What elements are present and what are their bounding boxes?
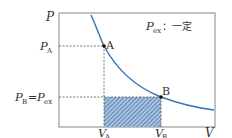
annotation-subscript: ex <box>153 27 161 35</box>
vb-subscript: B <box>162 133 167 138</box>
pex-subscript: ex <box>44 98 52 106</box>
pb-equals: = <box>28 91 37 104</box>
pv-diagram: A B P P A P B = P ex V A V B V P ex ：一定 <box>0 0 232 138</box>
pb-subscript: B <box>22 98 27 106</box>
va-subscript: A <box>104 133 111 138</box>
point-a-label: A <box>105 39 115 52</box>
work-area-hatched <box>104 97 161 127</box>
x-axis-label: V <box>205 126 215 138</box>
point-b-label: B <box>162 85 170 98</box>
pa-subscript: A <box>46 47 53 55</box>
annotation-text: ：一定 <box>162 20 192 32</box>
y-axis-label: P <box>45 10 55 24</box>
